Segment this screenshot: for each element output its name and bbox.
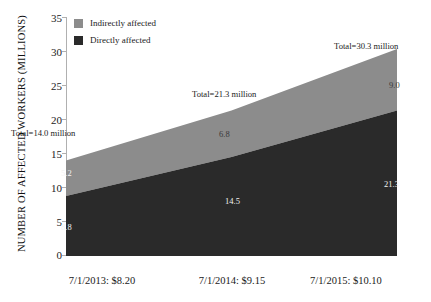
value-label-direct-2013: 8.8 [61,222,72,232]
value-label-direct-2015: 21.3 [384,179,399,189]
legend-swatch-indirect-icon [74,19,83,28]
legend-label-direct: Directly affected [90,35,151,45]
chart-figure: NUMBER OF AFFECTED WORKERS (MILLIONS) 35… [0,0,431,302]
total-annotation-2014: Total=21.3 million [192,89,256,99]
y-tick-label-10: 10 [36,182,62,194]
y-tick-label-5: 5 [36,216,62,228]
x-tick-label-2015: 7/1/2015: $10.10 [266,275,426,286]
value-label-indirect-2013: 5.2 [61,168,72,178]
y-tick-label-30: 30 [36,46,62,58]
value-label-indirect-2015: 9.0 [389,80,400,90]
y-tick-label-20: 20 [36,114,62,126]
legend-item-directly-affected: Directly affected [74,35,156,45]
legend-label-indirect: Indirectly affected [90,18,156,28]
total-annotation-2015: Total=30.3 million [334,41,398,51]
y-tick-label-15: 15 [36,148,62,160]
y-tick-label-0: 0 [36,249,62,261]
value-label-indirect-2014: 6.8 [219,129,230,139]
y-tick-label-35: 35 [36,12,62,24]
value-label-direct-2014: 14.5 [225,196,240,206]
stacked-area-plot [66,17,397,256]
chart-legend: Indirectly affected Directly affected [74,18,156,52]
legend-item-indirectly-affected: Indirectly affected [74,18,156,28]
total-annotation-2013: Total=14.0 million [11,128,75,138]
legend-swatch-direct-icon [74,36,83,45]
y-tick-label-25: 25 [36,80,62,92]
